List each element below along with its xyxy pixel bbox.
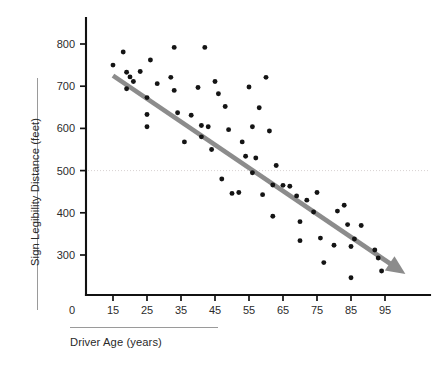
data-point (223, 104, 228, 109)
data-point (145, 124, 150, 129)
data-point (332, 243, 337, 248)
data-point (240, 139, 245, 144)
data-point (321, 260, 326, 265)
data-point (213, 79, 218, 84)
x-tick-label-75: 75 (311, 304, 323, 316)
data-point (196, 85, 201, 90)
data-point (202, 45, 207, 50)
data-point (206, 124, 211, 129)
tick-label-layer: 3004005006007008001525354555657585950 (57, 38, 391, 316)
origin-label: 0 (69, 304, 75, 316)
data-point (257, 105, 262, 110)
x-tick-label-45: 45 (209, 304, 221, 316)
data-point (304, 198, 309, 203)
data-point (349, 275, 354, 280)
data-point (243, 154, 248, 159)
x-tick-label-65: 65 (277, 304, 289, 316)
data-point (182, 139, 187, 144)
data-point (315, 190, 320, 195)
data-point (189, 113, 194, 118)
data-point (379, 269, 384, 274)
data-point (226, 127, 231, 132)
data-point (287, 184, 292, 189)
data-point (216, 91, 221, 96)
data-point (247, 85, 252, 90)
data-point (138, 69, 143, 74)
data-point (145, 112, 150, 117)
data-point (250, 170, 255, 175)
data-point (124, 86, 129, 91)
data-point (253, 155, 258, 160)
data-point (294, 193, 299, 198)
data-point (349, 244, 354, 249)
x-tick-label-35: 35 (175, 304, 187, 316)
trend-arrowhead (385, 256, 406, 274)
data-point (128, 74, 133, 79)
data-point (342, 203, 347, 208)
data-point (352, 237, 357, 242)
data-point (172, 45, 177, 50)
data-point (298, 219, 303, 224)
data-point (124, 70, 129, 75)
y-tick-label-400: 400 (57, 207, 75, 219)
data-point (270, 214, 275, 219)
scatter-plot-figure: Sign Legibility Distance (feet) Driver A… (0, 0, 436, 366)
plot-canvas: 3004005006007008001525354555657585950 (0, 0, 436, 366)
y-tick-label-700: 700 (57, 80, 75, 92)
data-point (267, 128, 272, 133)
data-point (335, 209, 340, 214)
y-tick-label-600: 600 (57, 122, 75, 134)
x-tick-label-25: 25 (141, 304, 153, 316)
x-tick-label-15: 15 (107, 304, 119, 316)
y-tick-label-800: 800 (57, 38, 75, 50)
data-point (155, 81, 160, 86)
data-point (145, 95, 150, 100)
data-point (230, 191, 235, 196)
data-point (260, 192, 265, 197)
data-point (318, 236, 323, 241)
data-point (168, 75, 173, 80)
data-point (219, 177, 224, 182)
data-point (359, 223, 364, 228)
data-point (345, 222, 350, 227)
data-point (270, 182, 275, 187)
data-point-layer (111, 45, 385, 280)
data-point (236, 190, 241, 195)
data-point (148, 58, 153, 63)
x-tick-label-55: 55 (243, 304, 255, 316)
data-point (274, 163, 279, 168)
data-point (281, 183, 286, 188)
x-tick-label-95: 95 (379, 304, 391, 316)
data-point (111, 63, 116, 68)
data-point (376, 256, 381, 261)
data-point (250, 124, 255, 129)
data-point (121, 50, 126, 55)
data-point (175, 110, 180, 115)
data-point (199, 134, 204, 139)
data-point (372, 247, 377, 252)
data-point (131, 79, 136, 84)
data-point (172, 88, 177, 93)
y-tick-label-500: 500 (57, 165, 75, 177)
y-tick-label-300: 300 (57, 249, 75, 261)
x-tick-label-85: 85 (345, 304, 357, 316)
data-point (199, 123, 204, 128)
data-point (209, 147, 214, 152)
data-point (311, 210, 316, 215)
data-point (298, 238, 303, 243)
data-point (264, 75, 269, 80)
